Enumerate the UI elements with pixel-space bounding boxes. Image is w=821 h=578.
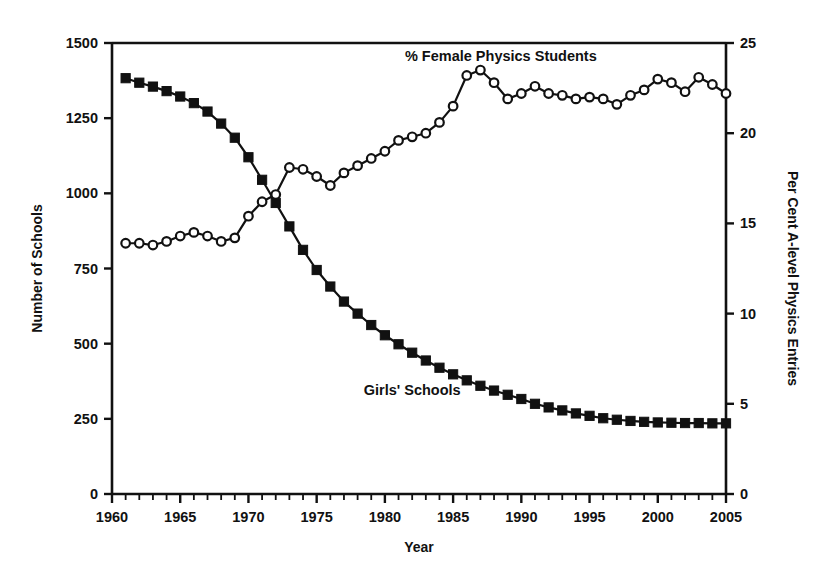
data-point-square: [503, 390, 512, 399]
data-point-square: [244, 153, 253, 162]
data-point-square: [285, 222, 294, 231]
data-point-square: [462, 376, 471, 385]
girls-schools-label: Girls' Schools: [364, 382, 461, 398]
data-point-square: [394, 340, 403, 349]
data-point-square: [558, 406, 567, 415]
data-point-circle: [367, 154, 376, 163]
data-point-circle: [285, 163, 294, 172]
data-point-circle: [162, 237, 171, 246]
data-point-square: [612, 415, 621, 424]
x-tick-label: 1965: [164, 509, 196, 525]
data-point-square: [326, 282, 335, 291]
data-point-circle: [694, 73, 703, 82]
x-tick-label: 2005: [710, 509, 742, 525]
y-tick-label-right: 0: [740, 486, 748, 502]
data-point-circle: [626, 91, 635, 100]
y-tick-label-right: 20: [740, 125, 756, 141]
data-point-square: [517, 394, 526, 403]
data-point-circle: [190, 228, 199, 237]
data-point-square: [380, 331, 389, 340]
data-point-square: [653, 418, 662, 427]
data-point-circle: [217, 237, 226, 246]
data-point-circle: [544, 89, 553, 98]
data-point-circle: [408, 133, 417, 142]
y-tick-label-left: 1500: [66, 35, 98, 51]
data-point-circle: [640, 86, 649, 95]
data-point-circle: [381, 147, 390, 156]
data-point-square: [421, 356, 430, 365]
data-point-circle: [653, 75, 662, 84]
data-point-square: [353, 309, 362, 318]
data-point-square: [667, 418, 676, 427]
data-point-circle: [340, 169, 349, 178]
x-axis-title: Year: [404, 539, 434, 555]
y-tick-label-left: 1000: [66, 185, 98, 201]
data-point-circle: [558, 91, 567, 100]
y-axis-title-right: Per Cent A-level Physics Entries: [785, 171, 801, 386]
x-tick-label: 1985: [437, 509, 469, 525]
data-point-square: [489, 386, 498, 395]
data-point-square: [257, 175, 266, 184]
data-point-square: [599, 414, 608, 423]
data-point-square: [476, 381, 485, 390]
data-point-square: [312, 265, 321, 274]
data-point-square: [148, 82, 157, 91]
data-point-circle: [503, 95, 512, 104]
data-point-circle: [517, 89, 526, 98]
data-point-circle: [121, 239, 130, 248]
data-point-circle: [449, 102, 458, 111]
y-tick-label-left: 1250: [66, 110, 98, 126]
y-tick-label-right: 10: [740, 306, 756, 322]
data-point-square: [626, 416, 635, 425]
y-axis-title-left: Number of Schools: [29, 204, 45, 333]
data-point-square: [203, 107, 212, 116]
data-point-square: [640, 417, 649, 426]
data-point-square: [680, 418, 689, 427]
x-tick-label: 1960: [96, 509, 128, 525]
data-point-circle: [722, 89, 731, 98]
data-point-circle: [244, 212, 253, 221]
percent-female-physics-label: % Female Physics Students: [405, 48, 597, 64]
x-tick-label: 1970: [232, 509, 264, 525]
data-point-circle: [476, 66, 485, 75]
data-point-circle: [231, 234, 240, 243]
data-point-circle: [585, 93, 594, 102]
data-point-square: [585, 411, 594, 420]
data-point-square: [408, 348, 417, 357]
data-point-square: [708, 419, 717, 428]
data-point-circle: [422, 129, 431, 138]
y-tick-label-left: 750: [74, 261, 98, 277]
data-point-circle: [613, 100, 622, 109]
y-tick-label-left: 500: [74, 336, 98, 352]
data-point-circle: [135, 239, 144, 248]
physics-schools-chart: 1960196519701975198019851990199520002005…: [0, 0, 821, 578]
data-point-circle: [394, 136, 403, 145]
data-point-circle: [353, 161, 362, 170]
data-point-circle: [490, 78, 499, 87]
data-point-square: [435, 363, 444, 372]
data-point-circle: [572, 95, 581, 104]
data-point-square: [449, 370, 458, 379]
data-point-circle: [176, 232, 185, 241]
y-tick-label-left: 250: [74, 411, 98, 427]
data-point-square: [339, 297, 348, 306]
data-point-circle: [681, 87, 690, 96]
y-tick-label-right: 25: [740, 35, 756, 51]
x-tick-label: 1980: [369, 509, 401, 525]
data-point-square: [571, 409, 580, 418]
data-point-square: [189, 99, 198, 108]
chart-container: 1960196519701975198019851990199520002005…: [0, 0, 821, 578]
data-point-circle: [462, 71, 471, 80]
data-point-square: [544, 403, 553, 412]
x-tick-label: 1975: [301, 509, 333, 525]
x-tick-label: 1990: [505, 509, 537, 525]
data-point-circle: [258, 197, 267, 206]
data-point-square: [694, 418, 703, 427]
data-point-circle: [667, 78, 676, 87]
data-point-circle: [203, 232, 212, 241]
data-point-square: [298, 245, 307, 254]
data-point-square: [121, 74, 130, 83]
data-point-square: [162, 87, 171, 96]
y-tick-label-right: 5: [740, 396, 748, 412]
data-point-circle: [531, 82, 540, 91]
